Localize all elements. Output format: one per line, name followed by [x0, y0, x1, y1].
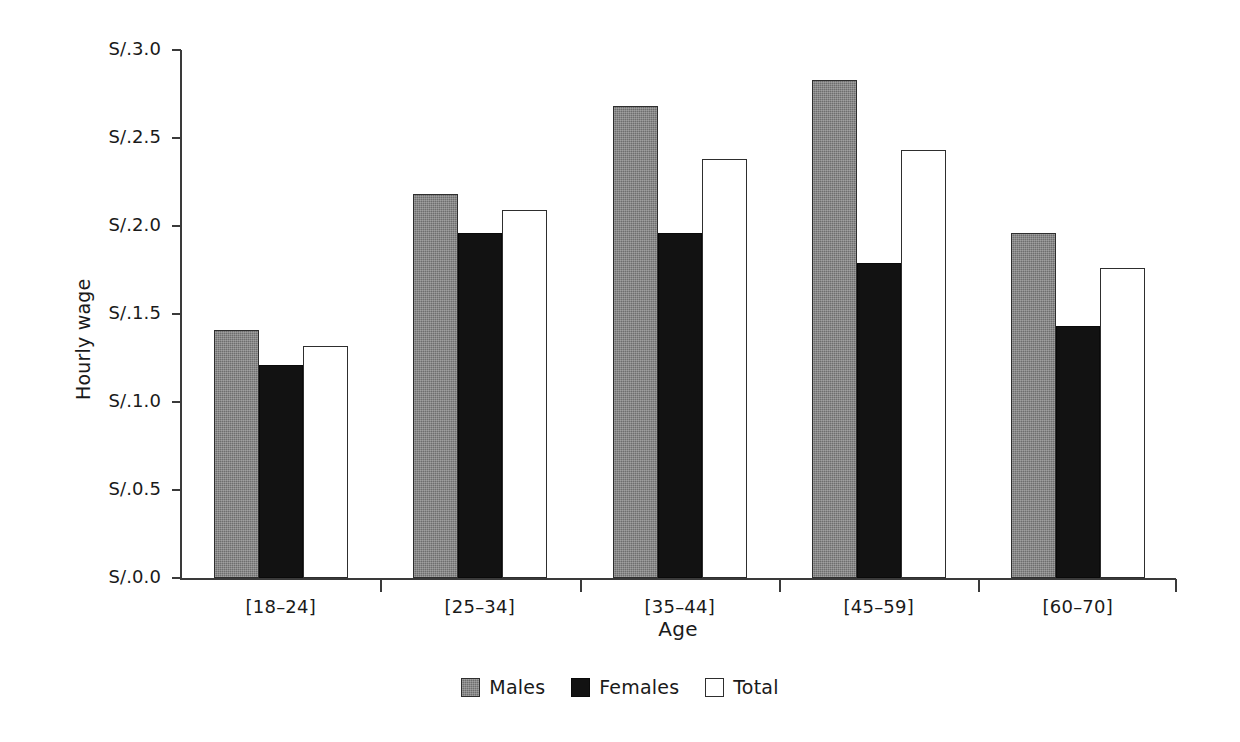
bar-males-3[interactable] [812, 80, 857, 578]
total-swatch-icon [705, 678, 724, 697]
y-tick-label: S/.1.5 [56, 302, 161, 323]
y-tick-mark [172, 49, 181, 51]
x-tick-label: [60–70] [988, 596, 1168, 617]
x-tick-mark [978, 579, 980, 592]
x-tick-label: [35–44] [590, 596, 770, 617]
x-axis-line [180, 578, 1176, 580]
bar-males-0[interactable] [214, 330, 259, 578]
bar-males-4[interactable] [1011, 233, 1056, 578]
y-tick-label: S/.0.5 [56, 478, 161, 499]
legend-item[interactable]: Females [571, 676, 679, 698]
y-tick-label: S/.0.0 [56, 566, 161, 587]
legend-item[interactable]: Total [705, 676, 778, 698]
bar-total-4[interactable] [1100, 268, 1145, 578]
y-axis-title: Hourly wage [72, 279, 94, 400]
y-tick-mark [172, 225, 181, 227]
bar-females-1[interactable] [458, 233, 503, 578]
females-swatch-icon [571, 678, 590, 697]
males-swatch-icon [461, 678, 480, 697]
bar-total-0[interactable] [303, 346, 348, 578]
legend-label: Total [733, 676, 778, 698]
y-tick-mark [172, 313, 181, 315]
bar-males-2[interactable] [613, 106, 658, 578]
y-tick-label: S/.2.0 [56, 214, 161, 235]
bar-total-3[interactable] [901, 150, 946, 578]
y-tick-mark [172, 137, 181, 139]
y-tick-label: S/.1.0 [56, 390, 161, 411]
bar-females-3[interactable] [857, 263, 902, 578]
x-tick-mark [1175, 579, 1177, 592]
x-tick-label: [45–59] [789, 596, 969, 617]
legend-item[interactable]: Males [461, 676, 545, 698]
x-tick-mark [779, 579, 781, 592]
y-tick-mark [172, 401, 181, 403]
bar-females-4[interactable] [1056, 326, 1101, 578]
y-tick-label: S/.3.0 [56, 38, 161, 59]
x-axis-title: Age [578, 617, 778, 641]
bar-total-1[interactable] [502, 210, 547, 578]
bar-females-2[interactable] [658, 233, 703, 578]
y-tick-mark [172, 577, 181, 579]
y-tick-mark [172, 489, 181, 491]
x-tick-label: [18–24] [191, 596, 371, 617]
x-tick-mark [580, 579, 582, 592]
legend-label: Females [599, 676, 679, 698]
bar-males-1[interactable] [413, 194, 458, 578]
bar-females-0[interactable] [259, 365, 304, 578]
x-tick-label: [25–34] [390, 596, 570, 617]
y-tick-label: S/.2.5 [56, 126, 161, 147]
x-tick-mark [380, 579, 382, 592]
legend-label: Males [489, 676, 545, 698]
chart-canvas: Hourly wage S/.0.0S/.0.5S/.1.0S/.1.5S/.2… [0, 0, 1240, 742]
chart-legend: Males Females Total [0, 676, 1240, 698]
bar-total-2[interactable] [702, 159, 747, 578]
